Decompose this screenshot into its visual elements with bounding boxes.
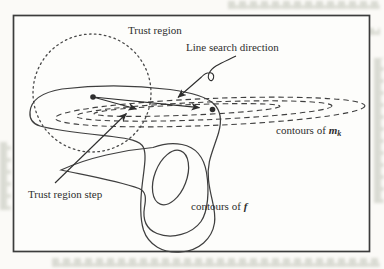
line-search-point (210, 107, 216, 113)
current-iterate-point (90, 94, 96, 100)
model-subscript: k (337, 129, 341, 138)
line-search-direction-label: Line search direction (186, 41, 279, 53)
contours-of-model-prefix: contours of (276, 124, 326, 136)
contours-of-objective-label: contours off (191, 200, 247, 212)
trust-region-step-label: Trust region step (28, 188, 102, 200)
objective-symbol: f (244, 200, 248, 212)
figure-page: Trust region Line search direction conto… (0, 0, 384, 269)
contours-of-objective-prefix: contours of (191, 200, 241, 212)
contours-of-model-label: contours ofmk (276, 124, 341, 140)
trust-region-label: Trust region (128, 24, 182, 36)
